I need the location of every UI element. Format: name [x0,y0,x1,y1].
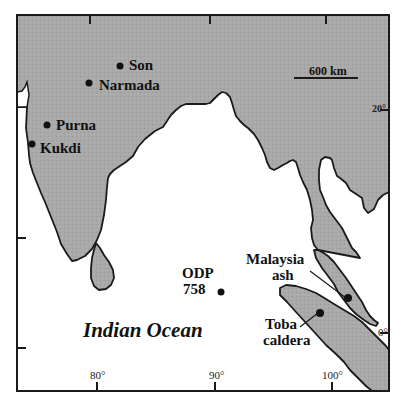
landmass-sri-lanka [91,243,114,290]
malaysia-ash-site-marker [344,294,352,302]
indian-ocean-label: Indian Ocean [83,320,203,341]
odp-758-site-marker [218,289,225,296]
son-label: Son [129,58,153,73]
toba-caldera-label-line2: caldera [263,333,310,348]
bottom-ticks [97,382,332,391]
odp-label-line2: 758 [183,282,206,297]
malaysia-ash-label-line2: ash [272,268,294,283]
left-ticks [17,238,26,348]
kukdi-site-marker [29,141,36,148]
narmada-label: Narmada [99,78,160,93]
lat-tick-0: 0° [378,327,388,338]
lon-tick-90: 90° [209,370,224,381]
kukdi-label: Kukdi [40,141,81,156]
son-site-marker [117,63,124,70]
lat-tick-20: 20° [372,104,386,114]
odp-label-line1: ODP [182,266,214,281]
map-canvas [0,0,412,407]
scale-bar-label: 600 km [309,65,347,77]
purna-label: Purna [56,118,96,133]
toba-caldera-site-marker [316,309,324,317]
narmada-site-marker [86,80,93,87]
toba-caldera-label-line1: Toba [265,317,297,332]
malaysia-ash-label-line1: Malaysia [246,252,304,267]
lon-tick-100: 100° [322,370,343,381]
lon-tick-80: 80° [90,370,105,381]
purna-site-marker [44,122,51,129]
landmass-india-asia [17,15,389,261]
